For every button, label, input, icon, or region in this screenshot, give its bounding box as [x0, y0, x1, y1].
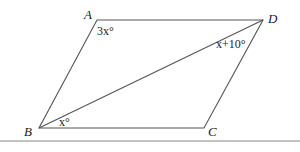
- vertex-label-c: C: [208, 124, 217, 139]
- angle-label-d: x+10°: [216, 37, 246, 51]
- angle-label-a: 3x°: [97, 24, 114, 38]
- angle-label-b: x°: [59, 115, 70, 129]
- vertex-label-b: B: [24, 124, 32, 139]
- parallelogram-diagram: A D B C 3x° x+10° x°: [0, 0, 300, 152]
- vertex-label-d: D: [267, 11, 278, 26]
- vertex-label-a: A: [83, 7, 92, 22]
